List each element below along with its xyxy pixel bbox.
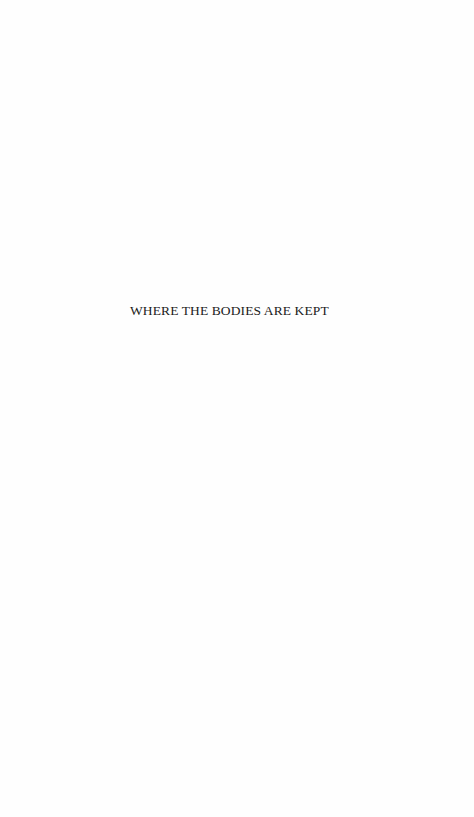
half-title: WHERE THE BODIES ARE KEPT xyxy=(130,303,329,319)
book-page: WHERE THE BODIES ARE KEPT xyxy=(0,0,474,817)
